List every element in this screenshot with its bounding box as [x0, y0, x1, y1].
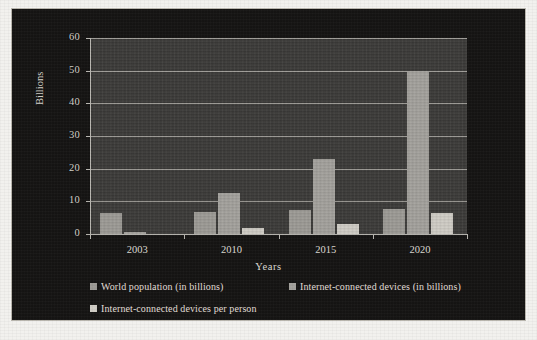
y-axis-tick-label: 30 — [18, 129, 80, 140]
x-axis-tick-label: 2003 — [90, 244, 184, 255]
x-axis-tick-label: 2020 — [373, 244, 467, 255]
bar — [124, 232, 146, 234]
y-axis-tick-label: 50 — [18, 64, 80, 75]
x-axis-tick — [467, 234, 468, 239]
legend-item[interactable]: Internet-connected devices per person — [90, 303, 257, 314]
legend-label: Internet-connected devices per person — [101, 303, 257, 314]
y-axis-tick-label: 20 — [18, 162, 80, 173]
x-axis-tick — [184, 234, 185, 239]
y-axis-tick-label: 0 — [18, 227, 80, 238]
bar — [407, 71, 429, 234]
x-axis-tick — [373, 234, 374, 239]
x-axis-tick-label: 2010 — [184, 244, 278, 255]
legend-item[interactable]: Internet-connected devices (in billions) — [289, 281, 461, 292]
legend-item[interactable]: World population (in billions) — [90, 281, 223, 292]
y-axis-tick-label: 40 — [18, 96, 80, 107]
x-axis-title: Years — [12, 261, 525, 272]
bar — [383, 209, 405, 234]
x-axis-tick — [279, 234, 280, 239]
x-axis-tick-label: 2015 — [279, 244, 373, 255]
legend-label: Internet-connected devices (in billions) — [300, 281, 461, 292]
bar — [218, 193, 240, 234]
legend-swatch-icon — [289, 283, 296, 290]
bar — [337, 224, 359, 234]
legend-swatch-icon — [90, 305, 97, 312]
bar — [289, 210, 311, 234]
y-axis-tick-label: 10 — [18, 194, 80, 205]
bar — [100, 213, 122, 234]
y-axis-line — [90, 38, 91, 235]
bar-series-layer — [90, 38, 467, 234]
legend-swatch-icon — [90, 283, 97, 290]
bar — [313, 159, 335, 234]
bar — [431, 213, 453, 234]
bar — [242, 228, 264, 234]
plot-area — [90, 38, 467, 234]
bar — [194, 212, 216, 234]
legend-label: World population (in billions) — [101, 281, 223, 292]
y-axis-tick-label: 60 — [18, 31, 80, 42]
x-axis-tick — [90, 234, 91, 239]
page-canvas: Billions 0102030405060 2003201020152020 … — [0, 0, 537, 340]
chart-figure-frame: Billions 0102030405060 2003201020152020 … — [11, 8, 526, 321]
chart-figure: Billions 0102030405060 2003201020152020 … — [12, 9, 525, 320]
